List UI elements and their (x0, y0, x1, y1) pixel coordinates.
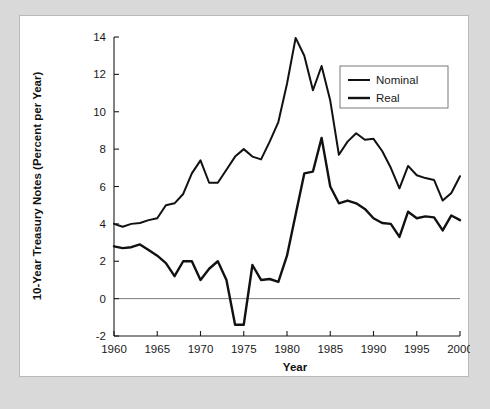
legend-label-real: Real (376, 92, 400, 104)
y-tick-label: 6 (100, 181, 106, 193)
y-tick-label: 8 (100, 143, 106, 155)
x-tick-label: 1975 (231, 343, 257, 355)
x-tick-label: 1990 (361, 343, 387, 355)
x-tick-label: 2000 (447, 343, 470, 355)
figure-frame: 196019651970197519801985199019952000 -20… (19, 15, 469, 377)
x-tick-label: 1965 (144, 343, 170, 355)
x-axis-title: Year (283, 361, 308, 373)
y-tick-label: 10 (93, 106, 106, 118)
y-tick-label: -2 (96, 330, 106, 342)
x-tick-label: 1985 (317, 343, 343, 355)
y-axis-ticks: -202468101214 (93, 31, 119, 342)
x-tick-label: 1995 (404, 343, 430, 355)
x-tick-label: 1980 (274, 343, 300, 355)
y-tick-label: 2 (100, 255, 106, 267)
y-tick-label: 4 (100, 218, 107, 230)
x-tick-label: 1970 (188, 343, 214, 355)
legend-label-nominal: Nominal (376, 74, 418, 86)
y-tick-label: 0 (100, 293, 106, 305)
y-tick-label: 14 (93, 31, 106, 43)
x-tick-label: 1960 (101, 343, 127, 355)
chart-area: 196019651970197519801985199019952000 -20… (20, 16, 470, 378)
x-axis-ticks: 196019651970197519801985199019952000 (101, 331, 470, 355)
y-axis-title: 10-Year Treasury Notes (Percent per Year… (31, 72, 43, 301)
line-chart: 196019651970197519801985199019952000 -20… (20, 16, 470, 378)
y-tick-label: 12 (93, 68, 106, 80)
legend: NominalReal (340, 66, 448, 108)
